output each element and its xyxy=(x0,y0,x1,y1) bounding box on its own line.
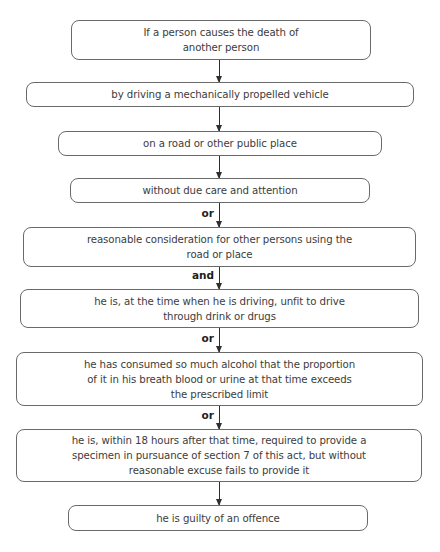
box-text-line: If a person causes the death of xyxy=(143,25,298,40)
flow-box-without-due-care: without due care and attention xyxy=(70,178,370,203)
flow-box-road-public-place: on a road or other public place xyxy=(58,131,382,156)
box-text-line: by driving a mechanically propelled vehi… xyxy=(111,87,328,102)
box-text-line: of it in his breath blood or urine at th… xyxy=(84,372,355,387)
box-text-line: he has consumed so much alcohol that the… xyxy=(84,357,355,372)
box-text-line: he is guilty of an offence xyxy=(156,511,280,526)
flow-box-reasonable-consideration: reasonable consideration for other perso… xyxy=(23,227,416,267)
box-text-line: reasonable consideration for other perso… xyxy=(87,232,352,247)
arrow-down-icon xyxy=(219,267,220,289)
flow-box-alcohol-limit: he has consumed so much alcohol that the… xyxy=(16,352,423,406)
box-text-line: on a road or other public place xyxy=(143,136,297,151)
box-text-line: the prescribed limit xyxy=(84,387,355,402)
box-text-line: he is, within 18 hours after that time, … xyxy=(72,433,367,448)
box-text-line: through drink or drugs xyxy=(94,309,345,324)
flow-box-guilty-of-offence: he is guilty of an offence xyxy=(68,505,368,531)
box-text-line: reasonable excuse fails to provide it xyxy=(72,463,367,478)
arrow-down-icon xyxy=(219,203,220,227)
connector-label-or: or xyxy=(174,207,214,219)
arrow-down-icon xyxy=(219,406,220,429)
flow-box-fails-to-provide-specimen: he is, within 18 hours after that time, … xyxy=(16,429,422,482)
flow-box-death-of-person: If a person causes the death of another … xyxy=(71,20,371,60)
flow-box-driving-vehicle: by driving a mechanically propelled vehi… xyxy=(26,82,414,107)
arrow-down-icon xyxy=(219,107,220,131)
arrow-down-icon xyxy=(219,482,220,505)
arrow-down-icon xyxy=(219,328,220,352)
connector-label-and: and xyxy=(174,269,214,281)
arrow-down-icon xyxy=(219,60,220,82)
box-text-line: another person xyxy=(143,40,298,55)
box-text-line: road or place xyxy=(87,247,352,262)
connector-label-or: or xyxy=(174,409,214,421)
box-text-line: without due care and attention xyxy=(142,183,297,198)
connector-label-or: or xyxy=(174,332,214,344)
flow-box-unfit-to-drive: he is, at the time when he is driving, u… xyxy=(20,289,419,328)
box-text-line: specimen in pursuance of section 7 of th… xyxy=(72,448,367,463)
box-text-line: he is, at the time when he is driving, u… xyxy=(94,294,345,309)
arrow-down-icon xyxy=(219,156,220,178)
